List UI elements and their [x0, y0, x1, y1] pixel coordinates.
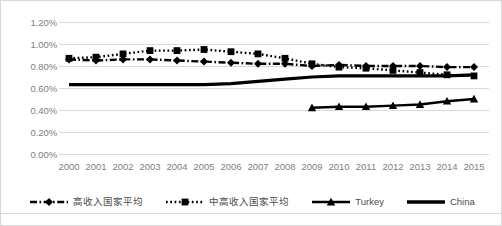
dash-dot-diamond-swatch — [29, 196, 69, 208]
data-point-marker — [201, 46, 208, 53]
legend-label: Turkey — [355, 197, 384, 207]
data-point-marker — [470, 63, 478, 71]
legend-item-3[interactable]: Turkey — [311, 196, 384, 208]
x-tick-label: 2013 — [409, 161, 430, 172]
data-point-marker — [227, 59, 235, 67]
data-point-marker — [120, 51, 127, 58]
series-3 — [308, 95, 478, 111]
x-tick-label: 2000 — [58, 161, 79, 172]
data-point-marker — [363, 65, 370, 72]
x-axis-labels: 2000200120022003200420052006200720082009… — [1, 161, 502, 177]
data-point-marker — [282, 55, 289, 62]
data-point-marker — [416, 62, 424, 70]
data-point-marker — [146, 55, 154, 63]
x-tick-label: 2001 — [85, 161, 106, 172]
x-tick-label: 2008 — [274, 161, 295, 172]
x-tick-label: 2005 — [193, 161, 214, 172]
x-tick-label: 2012 — [382, 161, 403, 172]
x-tick-label: 2002 — [112, 161, 133, 172]
x-tick-label: 2010 — [328, 161, 349, 172]
data-point-marker — [228, 48, 235, 55]
data-point-marker — [147, 47, 154, 54]
series-4 — [69, 75, 474, 85]
data-point-marker — [182, 199, 189, 206]
series-line — [69, 59, 474, 67]
data-point-marker — [200, 58, 208, 66]
legend-divider — [1, 213, 502, 214]
legend-item-2[interactable]: 中高收入国家平均 — [165, 196, 289, 208]
x-tick-label: 2004 — [166, 161, 187, 172]
series-1 — [65, 55, 478, 71]
data-point-marker — [174, 47, 181, 54]
x-tick-label: 2007 — [247, 161, 268, 172]
chart-legend: 高收入国家平均中高收入国家平均TurkeyChina — [1, 190, 502, 214]
data-point-marker — [66, 55, 73, 62]
series-line — [69, 75, 474, 85]
data-point-marker — [390, 67, 397, 74]
legend-item-1[interactable]: 高收入国家平均 — [29, 196, 143, 208]
data-point-marker — [173, 57, 181, 65]
data-point-marker — [336, 64, 343, 71]
x-tick-label: 2015 — [463, 161, 484, 172]
legend-label: 高收入国家平均 — [73, 197, 143, 207]
x-tick-label: 2003 — [139, 161, 160, 172]
data-point-marker — [93, 54, 100, 61]
dotted-square-swatch — [165, 196, 205, 208]
data-point-marker — [255, 51, 262, 58]
legend-label: 中高收入国家平均 — [209, 197, 289, 207]
data-point-marker — [45, 198, 53, 206]
series-line — [69, 50, 474, 76]
x-tick-label: 2006 — [220, 161, 241, 172]
legend-item-4[interactable]: China — [406, 196, 475, 208]
x-tick-label: 2009 — [301, 161, 322, 172]
chart-container: 1.20% 1.00% 0.80% 0.60% 0.40% 0.20% 0.00… — [0, 0, 502, 226]
x-tick-label: 2011 — [356, 161, 376, 172]
data-point-marker — [309, 60, 316, 67]
data-point-marker — [443, 63, 451, 71]
legend-label: China — [450, 197, 475, 207]
solid-triangle-swatch — [311, 196, 351, 208]
solid-line-swatch — [406, 196, 446, 208]
data-point-marker — [254, 60, 262, 68]
x-tick-label: 2014 — [436, 161, 457, 172]
